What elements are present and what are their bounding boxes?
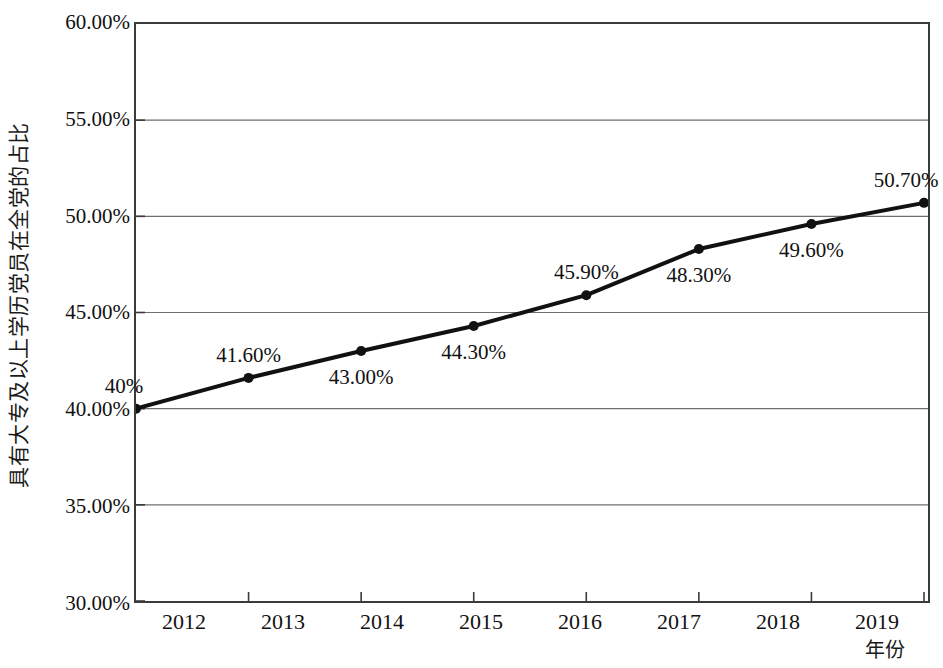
data-marker bbox=[244, 373, 254, 383]
data-marker bbox=[356, 346, 366, 356]
data-line bbox=[136, 203, 924, 409]
plot-canvas bbox=[136, 24, 928, 601]
x-axis-title: 年份 bbox=[845, 634, 925, 663]
data-point-label: 41.60% bbox=[179, 345, 319, 366]
data-markers bbox=[136, 198, 928, 414]
data-marker bbox=[694, 244, 704, 254]
x-tick-label: 2019 bbox=[817, 607, 937, 637]
data-marker bbox=[469, 321, 479, 331]
y-tick-label: 45.00% bbox=[34, 302, 130, 323]
plot-area bbox=[134, 22, 930, 603]
data-point-label: 40% bbox=[54, 376, 194, 397]
data-marker bbox=[581, 290, 591, 300]
data-marker bbox=[919, 198, 928, 208]
y-tick-label: 35.00% bbox=[34, 496, 130, 517]
y-tick-label: 60.00% bbox=[34, 12, 130, 33]
data-point-label: 43.00% bbox=[291, 367, 431, 388]
data-point-label: 49.60% bbox=[741, 240, 881, 261]
data-point-label: 50.70% bbox=[836, 170, 943, 191]
data-point-label: 48.30% bbox=[629, 265, 769, 286]
data-point-label: 44.30% bbox=[404, 342, 544, 363]
y-tick-label: 55.00% bbox=[34, 109, 130, 130]
y-tick-label: 40.00% bbox=[34, 399, 130, 420]
y-axis-tick-labels: 60.00% 55.00% 50.00% 45.00% 40.00% 35.00… bbox=[26, 0, 130, 668]
data-marker bbox=[806, 219, 816, 229]
y-tick-label: 50.00% bbox=[34, 206, 130, 227]
data-marker bbox=[136, 404, 141, 414]
x-axis-tick-labels: 2012 2013 2014 2015 2016 2017 2018 2019 bbox=[0, 607, 935, 647]
